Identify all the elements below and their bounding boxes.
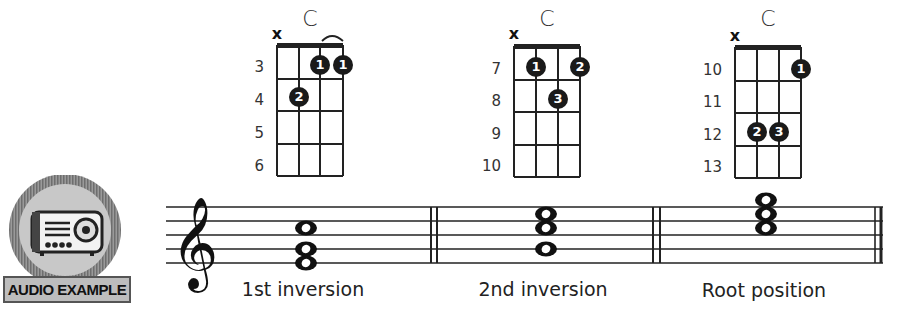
chord-notes-1st-inversion: [295, 221, 317, 271]
measure-label-2nd-inversion: 2nd inversion: [478, 278, 607, 300]
measure-label-1st-inversion: 1st inversion: [242, 278, 364, 300]
music-staff: 𝄞: [0, 0, 921, 325]
treble-clef-icon: 𝄞: [171, 196, 218, 293]
chord-notes-2nd-inversion: [535, 207, 557, 257]
measure-label-root-position: Root position: [702, 279, 826, 301]
chord-notes-root-position: [755, 193, 777, 236]
